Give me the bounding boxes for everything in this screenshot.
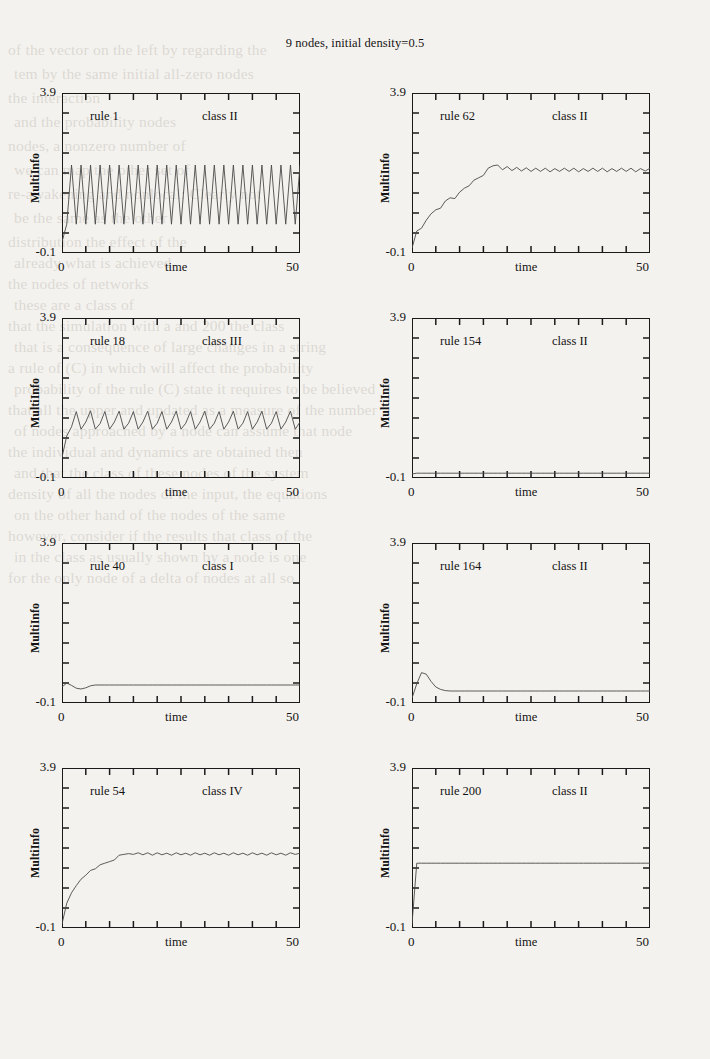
figure-multiinfo-ca-rules: 9 nodes, initial density=0.5 rule 1class…: [0, 0, 710, 1059]
class-label: class II: [552, 784, 588, 799]
x-axis-max-label: 50: [286, 484, 299, 500]
plot-panel-rule-200: rule 200class IIMultiInfo3.9-0.1050time: [412, 768, 650, 928]
class-label: class III: [202, 334, 242, 349]
rule-label: rule 40: [90, 559, 125, 574]
x-axis-min-label: 0: [58, 259, 65, 275]
plot-panel-rule-54: rule 54class IVMultiInfo3.9-0.1050time: [62, 768, 300, 928]
x-axis-label: time: [165, 485, 187, 500]
x-axis-label: time: [165, 935, 187, 950]
y-axis-max-label: 3.9: [370, 309, 406, 325]
y-axis-min-label: -0.1: [16, 919, 56, 935]
x-axis-max-label: 50: [286, 259, 299, 275]
data-series-line: [412, 673, 650, 699]
x-axis-min-label: 0: [58, 709, 65, 725]
y-axis-max-label: 3.9: [20, 759, 56, 775]
class-label: class II: [552, 109, 588, 124]
plot-panel-rule-1: rule 1class IIMultiInfo3.9-0.1050time: [62, 93, 300, 253]
rule-label: rule 54: [90, 784, 125, 799]
data-series-line: [62, 165, 300, 242]
class-label: class I: [202, 559, 234, 574]
y-axis-label: MultiInfo: [28, 153, 43, 203]
class-label: class II: [552, 559, 588, 574]
x-axis-min-label: 0: [408, 484, 415, 500]
plot-panel-rule-62: rule 62class IIMultiInfo3.9-0.1050time: [412, 93, 650, 253]
x-axis-min-label: 0: [408, 259, 415, 275]
data-series-line: [62, 683, 300, 689]
y-axis-label: MultiInfo: [378, 828, 393, 878]
figure-title: 9 nodes, initial density=0.5: [0, 36, 710, 51]
y-axis-min-label: -0.1: [366, 694, 406, 710]
x-axis-max-label: 50: [636, 259, 649, 275]
y-axis-label: MultiInfo: [378, 153, 393, 203]
y-axis-label: MultiInfo: [28, 603, 43, 653]
x-axis-label: time: [515, 710, 537, 725]
x-axis-label: time: [165, 260, 187, 275]
x-axis-label: time: [515, 260, 537, 275]
class-label: class IV: [202, 784, 243, 799]
data-series-line: [412, 165, 650, 248]
x-axis-min-label: 0: [408, 709, 415, 725]
x-axis-min-label: 0: [58, 934, 65, 950]
y-axis-max-label: 3.9: [20, 534, 56, 550]
x-axis-max-label: 50: [636, 484, 649, 500]
rule-label: rule 1: [90, 109, 119, 124]
data-series-line: [62, 853, 300, 924]
x-axis-label: time: [515, 485, 537, 500]
x-axis-max-label: 50: [636, 934, 649, 950]
plot-panel-rule-18: rule 18class IIIMultiInfo3.9-0.1050time: [62, 318, 300, 478]
x-axis-min-label: 0: [58, 484, 65, 500]
x-axis-min-label: 0: [408, 934, 415, 950]
x-axis-max-label: 50: [286, 709, 299, 725]
plot-panel-rule-164: rule 164class IIMultiInfo3.9-0.1050time: [412, 543, 650, 703]
y-axis-label: MultiInfo: [378, 378, 393, 428]
y-axis-max-label: 3.9: [370, 84, 406, 100]
y-axis-label: MultiInfo: [378, 603, 393, 653]
y-axis-label: MultiInfo: [28, 378, 43, 428]
rule-label: rule 62: [440, 109, 475, 124]
y-axis-max-label: 3.9: [20, 309, 56, 325]
x-axis-label: time: [515, 935, 537, 950]
data-series-line: [62, 411, 300, 457]
y-axis-label: MultiInfo: [28, 828, 43, 878]
y-axis-max-label: 3.9: [20, 84, 56, 100]
rule-label: rule 18: [90, 334, 125, 349]
y-axis-min-label: -0.1: [366, 244, 406, 260]
y-axis-min-label: -0.1: [16, 694, 56, 710]
plot-panel-rule-40: rule 40class IMultiInfo3.9-0.1050time: [62, 543, 300, 703]
y-axis-min-label: -0.1: [366, 469, 406, 485]
rule-label: rule 200: [440, 784, 481, 799]
data-series-line: [412, 863, 650, 924]
x-axis-max-label: 50: [636, 709, 649, 725]
y-axis-min-label: -0.1: [366, 919, 406, 935]
class-label: class II: [552, 334, 588, 349]
class-label: class II: [202, 109, 238, 124]
y-axis-min-label: -0.1: [16, 469, 56, 485]
rule-label: rule 164: [440, 559, 481, 574]
x-axis-label: time: [165, 710, 187, 725]
y-axis-min-label: -0.1: [16, 244, 56, 260]
y-axis-max-label: 3.9: [370, 759, 406, 775]
x-axis-max-label: 50: [286, 934, 299, 950]
y-axis-max-label: 3.9: [370, 534, 406, 550]
plot-panel-rule-154: rule 154class IIMultiInfo3.9-0.1050time: [412, 318, 650, 478]
rule-label: rule 154: [440, 334, 481, 349]
